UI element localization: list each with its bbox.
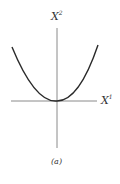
figure-caption: (a) xyxy=(51,158,62,166)
parabola-diagram: X2 X1 (a) xyxy=(0,0,120,184)
x-axis-label-base: X xyxy=(101,94,109,107)
x-axis-label: X1 xyxy=(101,95,113,106)
y-axis-label: X2 xyxy=(51,11,63,22)
x-axis-label-superscript: 1 xyxy=(109,93,113,100)
parabola-curve xyxy=(12,45,98,101)
y-axis-label-superscript: 2 xyxy=(59,9,63,16)
y-axis-label-base: X xyxy=(51,10,59,23)
